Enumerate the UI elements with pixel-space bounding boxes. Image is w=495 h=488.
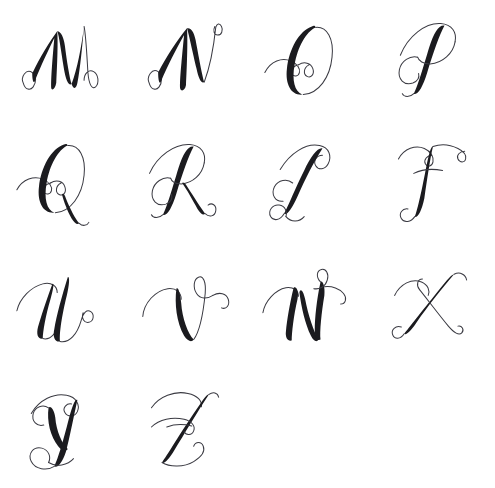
- glyph-letter-p-art: [385, 13, 481, 109]
- glyph-letter-t-art: [385, 135, 481, 231]
- glyph-letter-n-art: [138, 13, 234, 109]
- glyph-letter-t: T: [371, 122, 495, 244]
- glyph-letter-y-art: [14, 379, 110, 475]
- glyph-letter-r-art: [138, 135, 234, 231]
- glyph-letter-o-art: [261, 13, 357, 109]
- glyph-letter-w: W: [248, 244, 372, 366]
- glyph-letter-w-art: [261, 257, 357, 353]
- glyph-letter-y: Y: [0, 366, 124, 488]
- glyph-letter-s: S: [248, 122, 372, 244]
- glyph-letter-o: O: [248, 0, 372, 122]
- glyph-letter-n: N: [124, 0, 248, 122]
- glyph-letter-q-art: [14, 135, 110, 231]
- glyph-letter-m-art: [14, 13, 110, 109]
- glyph-letter-z: Z: [124, 366, 248, 488]
- glyph-letter-s-art: [261, 135, 357, 231]
- calligraphy-specimen-sheet: Calligraphy Script Alphabet Specimen M N: [0, 0, 495, 488]
- glyph-letter-x: X: [371, 244, 495, 366]
- glyph-letter-r: R: [124, 122, 248, 244]
- glyph-letter-p: P: [371, 0, 495, 122]
- glyph-grid: M N O: [0, 0, 495, 488]
- glyph-letter-m: M: [0, 0, 124, 122]
- glyph-letter-z-art: [138, 379, 234, 475]
- glyph-letter-u: U: [0, 244, 124, 366]
- glyph-letter-v-art: [138, 257, 234, 353]
- glyph-letter-v: V: [124, 244, 248, 366]
- glyph-letter-u-art: [14, 257, 110, 353]
- glyph-letter-x-art: [385, 257, 481, 353]
- glyph-letter-q: Q: [0, 122, 124, 244]
